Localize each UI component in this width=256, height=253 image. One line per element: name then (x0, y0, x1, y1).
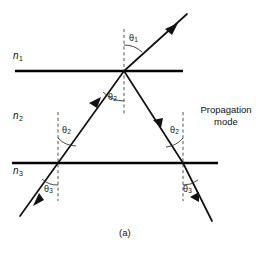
propagation-mode-annotation: Propagation mode (198, 104, 254, 128)
refractive-index-label-n2: n2 (13, 111, 23, 122)
propagation-mode-line1: Propagation (198, 104, 254, 116)
angle-label-theta1-top: θ1 (129, 34, 138, 44)
refractive-index-symbol-n3: n (13, 165, 19, 176)
refractive-index-subscript-n2: 2 (19, 115, 23, 122)
refractive-index-symbol-n1: n (13, 50, 19, 61)
propagation-mode-line2: mode (198, 116, 254, 128)
figure-caption: (a) (119, 228, 131, 238)
angle-label-theta2-top: θ2 (108, 93, 117, 103)
angle-subscript-theta3-right: 3 (188, 187, 192, 194)
angle-subscript-theta3-left: 3 (49, 187, 53, 194)
refractive-index-label-n1: n1 (13, 51, 23, 62)
ray-top-to-right (124, 71, 183, 163)
angle-subscript-theta2-left: 2 (67, 128, 71, 135)
angle-subscript-theta2-top: 2 (113, 95, 117, 102)
refractive-index-subscript-n3: 3 (19, 170, 23, 177)
angle-label-theta2-right: θ2 (170, 126, 179, 136)
refractive-index-symbol-n2: n (13, 110, 19, 121)
angle-label-theta3-left: θ3 (44, 185, 53, 195)
ray-left-to-top (58, 71, 124, 163)
angle-label-theta2-left: θ2 (62, 126, 71, 136)
angle-subscript-theta2-right: 2 (175, 128, 179, 135)
angle-label-theta3-right: θ3 (183, 185, 192, 195)
angle-subscript-theta1-top: 1 (134, 36, 138, 43)
angle-arc-theta1-top (124, 45, 142, 52)
refractive-index-subscript-n1: 1 (19, 55, 23, 62)
ray-diagram-figure: n1 n2 n3 θ1 θ2 θ2 θ2 θ3 θ3 Propagation m… (0, 0, 256, 253)
refractive-index-label-n3: n3 (13, 166, 23, 177)
